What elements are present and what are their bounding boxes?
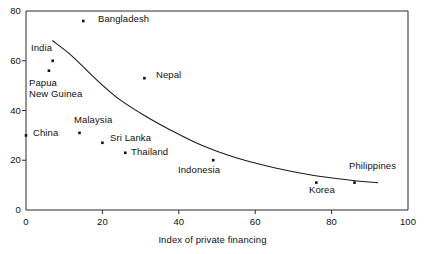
x-tick-label: 80 [318,216,346,227]
data-point-philippines [353,181,356,184]
y-tick-label: 60 [0,55,21,66]
x-tick-label: 0 [12,216,40,227]
x-axis-title: Index of private financing [0,234,425,245]
point-label-korea: Korea [309,185,335,196]
y-tick-label: 80 [0,5,21,16]
y-tick-label: 40 [0,105,21,116]
point-label-china: China [33,128,58,139]
data-point-bangladesh [82,20,85,23]
data-point-sri-lanka [101,142,104,145]
data-point-papua-new-guinea [48,69,51,72]
point-label-nepal: Nepal [156,70,181,81]
data-point-india [51,60,54,63]
point-label-indonesia: Indonesia [178,165,220,176]
point-label-bangladesh: Bangladesh [98,14,149,25]
trend-curve [53,41,378,183]
point-label-thailand: Thailand [131,147,168,158]
point-label-sri-lanka: Sri Lanka [110,133,151,144]
data-point-nepal [143,77,146,80]
point-label-malaysia: Malaysia [74,115,112,126]
x-tick-label: 100 [394,216,422,227]
chart-canvas [0,0,425,254]
x-tick-label: 60 [241,216,269,227]
point-label-india: India [31,43,52,54]
scatter-chart-figure: 020406080100020406080BangladeshIndiaPapu… [0,0,425,254]
data-point-china [25,134,28,137]
x-tick-label: 20 [88,216,116,227]
data-point-malaysia [78,132,81,135]
y-tick-label: 0 [0,204,21,215]
data-point-indonesia [212,159,215,162]
point-label-papua-new-guinea: PapuaNew Guinea [29,78,82,99]
x-tick-label: 40 [165,216,193,227]
data-point-thailand [124,152,127,155]
y-tick-label: 20 [0,154,21,165]
point-label-philippines: Philippines [349,161,396,172]
